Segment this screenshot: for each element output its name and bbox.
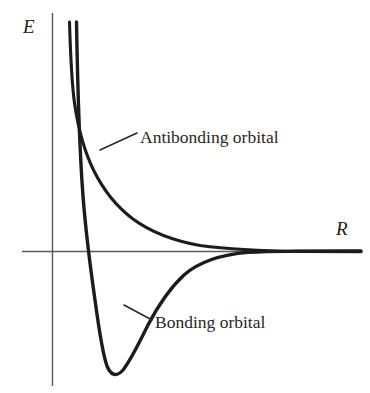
- energy-curve-plot: [0, 0, 370, 393]
- y-axis-label: E: [23, 17, 35, 36]
- antibonding-leader-line: [100, 133, 137, 150]
- x-axis-label: R: [336, 219, 348, 238]
- bonding-leader-line: [124, 305, 152, 320]
- bonding-orbital-label: Bonding orbital: [155, 314, 265, 332]
- antibonding-orbital-label: Antibonding orbital: [140, 129, 279, 147]
- molecular-orbital-energy-figure: E R Antibonding orbital Bonding orbital: [0, 0, 370, 393]
